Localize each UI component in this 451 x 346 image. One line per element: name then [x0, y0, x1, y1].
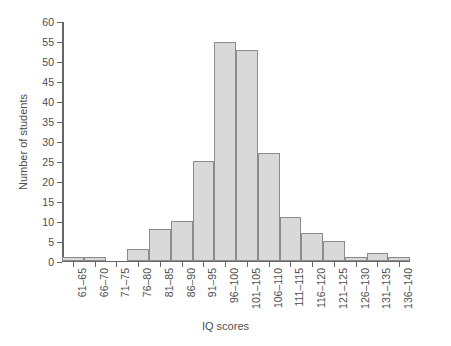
x-axis-title: IQ scores [0, 320, 451, 332]
y-axis-tick-label: 30 [42, 137, 54, 148]
y-axis-tick-label: 50 [42, 57, 54, 68]
bar [193, 161, 215, 260]
x-axis-tick-label: 106–110 [273, 268, 284, 308]
y-axis-tick-label: 0 [48, 257, 54, 268]
y-axis-tick-label: 15 [42, 197, 54, 208]
y-axis-tick [57, 142, 62, 143]
y-axis-tick [57, 262, 62, 263]
x-axis-tick [138, 262, 139, 267]
bar [258, 153, 280, 260]
bar [171, 221, 193, 261]
x-axis-tick [95, 262, 96, 267]
y-axis-tick [57, 42, 62, 43]
x-axis-tick-label: 71–75 [120, 268, 131, 297]
x-axis-tick-label: 76–80 [142, 268, 153, 297]
y-axis-tick [57, 122, 62, 123]
x-axis-tick-label: 116–120 [316, 268, 327, 308]
y-axis-tick [57, 162, 62, 163]
bar [388, 257, 410, 261]
bar [84, 257, 106, 261]
y-axis-tick-label: 20 [42, 177, 54, 188]
x-axis-tick [377, 262, 378, 267]
x-axis-tick-label: 131–135 [381, 268, 392, 309]
x-axis-tick [269, 262, 270, 267]
y-axis-tick [57, 22, 62, 23]
x-axis-line [62, 261, 410, 263]
bar [280, 217, 302, 261]
bar [323, 241, 345, 261]
x-axis-tick [160, 262, 161, 267]
bar [214, 42, 236, 260]
x-axis-tick-label: 101–105 [251, 268, 262, 309]
y-axis-tick [57, 62, 62, 63]
y-axis-tick-labels: 051015202530354045505560 [28, 0, 54, 346]
x-axis-tick [73, 262, 74, 267]
x-axis-tick-labels: 61–6566–7071–7576–8081–8586–9091–9596–10… [62, 268, 410, 318]
bar [345, 257, 367, 261]
bar [236, 50, 258, 260]
x-axis-tick [312, 262, 313, 267]
plot-area [62, 22, 410, 262]
y-axis-tick-label: 25 [42, 157, 54, 168]
bar-series [62, 23, 410, 261]
bar [301, 233, 323, 261]
x-axis-tick [334, 262, 335, 267]
x-axis-tick [225, 262, 226, 267]
x-axis-tick [182, 262, 183, 267]
x-axis-tick [203, 262, 204, 267]
x-axis-tick [290, 262, 291, 267]
x-axis-tick-label: 136–140 [403, 268, 414, 309]
bar [127, 249, 149, 261]
x-axis-tick [399, 262, 400, 267]
y-axis-tick-label: 40 [42, 97, 54, 108]
y-axis-tick-label: 35 [42, 117, 54, 128]
y-axis-tick-label: 10 [42, 217, 54, 228]
bar [149, 229, 171, 261]
x-axis-tick [356, 262, 357, 267]
y-axis-tick [57, 202, 62, 203]
y-axis-tick [57, 102, 62, 103]
y-axis-tick [57, 182, 62, 183]
x-axis-tick-label: 111–115 [294, 268, 305, 307]
bar [62, 257, 84, 261]
x-axis-tick-label: 61–65 [77, 268, 88, 297]
y-axis-tick-label: 5 [48, 237, 54, 248]
x-axis-tick-label: 91–95 [207, 268, 218, 297]
y-axis-tick-label: 60 [42, 17, 54, 28]
x-axis-tick [247, 262, 248, 267]
x-axis-tick-label: 126–130 [360, 268, 371, 309]
y-axis-tick [57, 222, 62, 223]
x-axis-tick [116, 262, 117, 267]
x-axis-tick-label: 96–100 [229, 268, 240, 303]
x-axis-tick-label: 66–70 [99, 268, 110, 297]
y-axis-tick [57, 242, 62, 243]
bar [367, 253, 389, 261]
x-axis-tick-label: 81–85 [164, 268, 175, 297]
x-axis-tick-label: 121–125 [338, 268, 349, 309]
y-axis-tick-label: 55 [42, 37, 54, 48]
x-axis-tick-label: 86–90 [186, 268, 197, 297]
y-axis-tick-label: 45 [42, 77, 54, 88]
y-axis-tick [57, 82, 62, 83]
histogram-chart: Number of students 051015202530354045505… [0, 0, 451, 346]
